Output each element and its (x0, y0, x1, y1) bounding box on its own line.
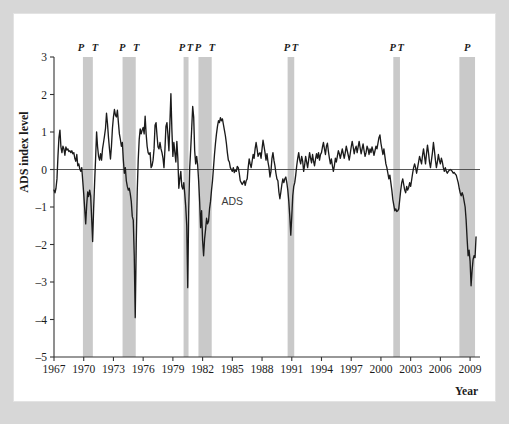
x-tick-label: 2006 (429, 363, 452, 375)
axes-group (50, 57, 480, 361)
figure-panel: 3210–1–2–3–4–519671970197319761979198219… (14, 14, 495, 401)
peak-label: P (464, 42, 471, 53)
x-tick-label: 2009 (459, 363, 482, 375)
peak-label: P (179, 42, 186, 53)
peak-label: P (119, 42, 126, 53)
x-tick-label: 2000 (369, 363, 392, 375)
x-tick-label: 1988 (251, 363, 274, 375)
y-tick-label: –1 (35, 201, 48, 213)
y-tick-label: –4 (35, 314, 48, 326)
trough-label: T (397, 42, 404, 53)
ads-index-chart: 3210–1–2–3–4–519671970197319761979198219… (14, 14, 495, 401)
y-tick-label: 0 (41, 164, 47, 176)
recession-bands-group (83, 57, 475, 357)
ads-series-line (54, 94, 476, 318)
recession-band (459, 57, 475, 357)
x-axis-title: Year (455, 385, 478, 397)
peak-label: P (389, 42, 396, 53)
y-tick-label: 3 (41, 51, 47, 63)
x-tick-label: 1994 (310, 363, 333, 375)
trough-label: T (292, 42, 299, 53)
peak-label: P (78, 42, 85, 53)
x-tick-label: 1967 (43, 363, 66, 375)
trough-label: T (92, 42, 99, 53)
x-tick-label: 1985 (221, 363, 244, 375)
trough-label: T (133, 42, 140, 53)
y-tick-label: –5 (35, 351, 48, 363)
trough-label: T (209, 42, 216, 53)
peak-trough-labels-group: PTPTPTPTPTPTP (78, 42, 471, 53)
series-annotation-label: ADS (222, 195, 244, 207)
trough-label: T (187, 42, 194, 53)
x-tick-label: 1991 (280, 363, 303, 375)
x-tick-label: 1970 (72, 363, 95, 375)
x-tick-label: 1973 (102, 363, 125, 375)
y-tick-label: –3 (35, 276, 48, 288)
y-axis-title: ADS index level (17, 111, 31, 193)
x-tick-label: 1976 (132, 363, 155, 375)
y-tick-label: 1 (41, 126, 47, 138)
x-tick-label: 2003 (399, 363, 422, 375)
x-tick-label: 1997 (340, 363, 363, 375)
ads-series-group (54, 94, 476, 318)
recession-band (123, 57, 136, 357)
peak-label: P (284, 42, 291, 53)
axis-labels-group: 3210–1–2–3–4–519671970197319761979198219… (35, 51, 482, 375)
y-tick-label: 2 (41, 89, 47, 101)
x-tick-label: 1982 (191, 363, 214, 375)
x-tick-label: 1979 (161, 363, 184, 375)
y-tick-label: –2 (35, 239, 48, 251)
peak-label: P (195, 42, 202, 53)
